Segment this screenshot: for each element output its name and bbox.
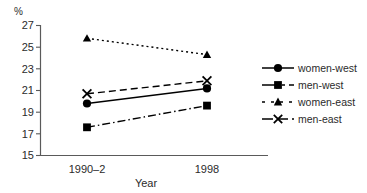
series-men-east [83,76,212,98]
legend-item-men-east[interactable]: men-east [261,111,367,126]
x-tick-label-0: 1990–2 [57,163,117,175]
legend-label-men-east: men-east [298,112,342,126]
axis-lines [36,25,268,156]
chart-figure: % 27 25 23 21 19 17 15 [0,0,367,193]
legend-key-men-west [261,78,295,92]
x-axis-title: Year [116,177,176,189]
chart-legend: women-west men-west women-east [261,60,367,128]
legend-label-men-west: men-west [298,78,344,92]
series-men-west [83,102,211,132]
series-women-east [83,34,211,58]
legend-item-women-east[interactable]: women-east [261,94,367,109]
legend-label-women-west: women-west [298,61,357,75]
legend-key-men-east [261,112,295,126]
legend-key-women-east [261,95,295,109]
legend-item-men-west[interactable]: men-west [261,77,367,92]
legend-label-women-east: women-east [298,95,355,109]
legend-item-women-west[interactable]: women-west [261,60,367,75]
x-tick-label-1: 1998 [177,163,237,175]
legend-key-women-west [261,61,295,75]
